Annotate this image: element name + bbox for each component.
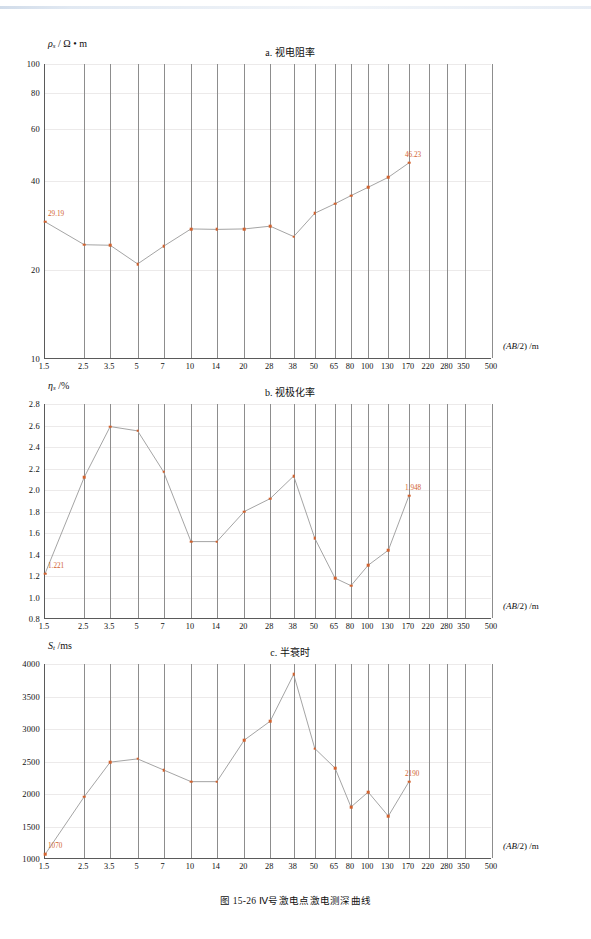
y-tick-label: 3000	[22, 724, 40, 734]
y-tick-label: 3500	[22, 692, 40, 702]
data-point-marker	[162, 769, 165, 772]
y-tick-label: 2500	[22, 757, 40, 767]
x-tick-label: 130	[381, 862, 393, 871]
y-tick-label: 1000	[22, 854, 40, 864]
data-point-marker	[387, 815, 390, 818]
x-tick-label: 7	[160, 862, 164, 871]
data-point-marker	[367, 791, 370, 794]
data-point-marker	[350, 806, 353, 809]
x-tick-label: 65	[330, 862, 338, 871]
figure-page: ρs / Ω • m a. 视电阻率 29.1946.23 (AB/2) /m …	[0, 0, 591, 939]
data-point-label: 1070	[48, 842, 62, 850]
x-tick-label: 14	[212, 862, 220, 871]
data-point-label: 2190	[405, 770, 419, 778]
data-series-line	[45, 664, 492, 859]
x-tick-label: 28	[265, 862, 273, 871]
data-point-marker	[269, 720, 272, 723]
data-point-marker	[243, 739, 246, 742]
x-tick-label: 5	[135, 862, 139, 871]
x-tick-label: 280	[440, 862, 452, 871]
data-point-marker	[216, 780, 219, 783]
x-tick-label: 220	[422, 862, 434, 871]
data-point-marker	[314, 747, 317, 750]
data-point-marker	[190, 780, 193, 783]
chart-title-c: c. 半衰时	[270, 644, 309, 659]
x-tick-label: 80	[346, 862, 354, 871]
x-tick-label: 38	[289, 862, 297, 871]
data-point-marker	[83, 795, 86, 798]
x-gridline	[492, 664, 493, 858]
x-tick-label: 350	[457, 862, 469, 871]
x-tick-label: 50	[310, 862, 318, 871]
x-tick-label: 100	[361, 862, 373, 871]
x-axis-title-c: (AB/2) /m	[503, 841, 539, 851]
data-point-marker	[292, 673, 295, 676]
chart-panel-half-decay-time: St /ms c. 半衰时 10702190 (AB/2) /m 1000150…	[0, 0, 591, 939]
y-axis-title-c: St /ms	[48, 640, 72, 652]
y-tick-label: 2000	[22, 789, 40, 799]
data-point-marker	[109, 761, 112, 764]
x-tick-label: 170	[402, 862, 414, 871]
data-point-marker	[408, 780, 411, 783]
x-tick-label: 3.5	[104, 862, 114, 871]
y-tick-label: 4000	[22, 659, 40, 669]
x-tick-label: 10	[186, 862, 194, 871]
x-tick-label: 20	[239, 862, 247, 871]
data-point-marker	[334, 767, 337, 770]
plot-area-c: 10702190	[44, 664, 491, 859]
figure-caption: 图 15-26 Ⅳ号激电点激电测深曲线	[0, 893, 591, 907]
y-tick-label: 1500	[22, 822, 40, 832]
x-tick-label: 1.5	[39, 862, 49, 871]
data-point-marker	[44, 853, 47, 856]
data-point-marker	[136, 758, 139, 761]
x-tick-label: 500	[485, 862, 497, 871]
x-tick-label: 2.5	[78, 862, 88, 871]
